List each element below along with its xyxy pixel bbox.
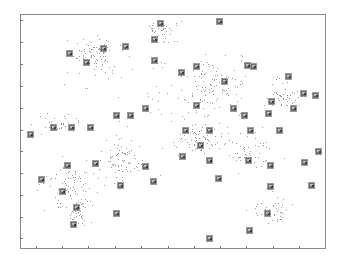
data-point	[127, 152, 128, 153]
data-point	[72, 175, 73, 176]
data-point	[72, 190, 73, 191]
data-point	[237, 101, 238, 102]
data-point	[283, 94, 284, 95]
data-point	[201, 150, 202, 151]
data-point	[182, 116, 183, 117]
data-point	[122, 171, 123, 172]
image-thumbnail	[230, 105, 237, 112]
data-point	[184, 119, 185, 120]
data-point	[119, 139, 120, 140]
data-point	[76, 118, 77, 119]
data-point	[68, 114, 69, 115]
data-point	[226, 76, 227, 77]
data-point	[78, 120, 79, 121]
data-point	[241, 61, 242, 62]
data-point	[152, 99, 153, 100]
image-thumbnail	[312, 92, 319, 99]
data-point	[227, 127, 228, 128]
data-point	[129, 151, 130, 152]
data-point	[103, 53, 104, 54]
image-thumbnail	[117, 182, 124, 189]
data-point	[241, 98, 242, 99]
data-point	[211, 144, 212, 145]
data-point	[61, 124, 62, 125]
data-point	[105, 56, 106, 57]
image-thumbnail	[113, 112, 120, 119]
data-point	[156, 86, 157, 87]
data-point	[217, 68, 218, 69]
data-point	[262, 127, 263, 128]
x-tick	[168, 246, 169, 249]
data-point	[110, 158, 111, 159]
data-point	[205, 138, 206, 139]
data-point	[105, 59, 106, 60]
data-point	[31, 124, 32, 125]
data-point	[201, 78, 202, 79]
data-point	[154, 32, 155, 33]
data-point	[187, 76, 188, 77]
data-point	[99, 53, 100, 54]
data-point	[192, 125, 193, 126]
data-point	[240, 157, 241, 158]
data-point	[268, 223, 269, 224]
data-point	[65, 183, 66, 184]
image-thumbnail	[285, 73, 292, 80]
data-point	[207, 135, 208, 136]
data-point	[182, 141, 183, 142]
data-point	[256, 167, 257, 168]
data-point	[210, 84, 211, 85]
data-point	[248, 147, 249, 148]
data-point	[274, 215, 275, 216]
data-point	[85, 183, 86, 184]
image-thumbnail	[92, 160, 99, 167]
data-point	[219, 123, 220, 124]
data-point	[97, 192, 98, 193]
data-point	[256, 206, 257, 207]
data-point	[224, 144, 225, 145]
y-tick	[20, 130, 23, 131]
data-point	[160, 175, 161, 176]
data-point	[294, 102, 295, 103]
data-point	[222, 89, 223, 90]
data-point	[90, 52, 91, 53]
image-thumbnail	[127, 112, 134, 119]
image-thumbnail	[27, 131, 34, 138]
data-point	[84, 220, 85, 221]
data-point	[70, 215, 71, 216]
data-point	[65, 126, 66, 127]
data-point	[130, 163, 131, 164]
data-point	[189, 147, 190, 148]
data-point	[282, 213, 283, 214]
data-point	[260, 143, 261, 144]
data-point	[285, 89, 286, 90]
data-point	[97, 35, 98, 36]
data-point	[115, 172, 116, 173]
x-tick	[273, 246, 274, 249]
data-point	[129, 56, 130, 57]
data-point	[214, 79, 215, 80]
data-point	[273, 205, 274, 206]
image-thumbnail	[68, 124, 75, 131]
data-point	[196, 138, 197, 139]
data-point	[89, 41, 90, 42]
data-point	[116, 135, 117, 136]
data-point	[205, 95, 206, 96]
data-point	[205, 73, 206, 74]
image-thumbnail	[247, 127, 254, 134]
data-point	[241, 81, 242, 82]
data-point	[276, 208, 277, 209]
data-point	[83, 203, 84, 204]
data-point	[177, 41, 178, 42]
data-point	[81, 204, 82, 205]
data-point	[223, 90, 224, 91]
data-point	[180, 139, 181, 140]
data-point	[226, 90, 227, 91]
data-point	[194, 145, 195, 146]
data-point	[273, 206, 274, 207]
image-thumbnail	[276, 127, 283, 134]
data-point	[263, 161, 264, 162]
data-point	[276, 79, 277, 80]
data-point	[127, 126, 128, 127]
data-point	[83, 184, 84, 185]
data-point	[127, 171, 128, 172]
